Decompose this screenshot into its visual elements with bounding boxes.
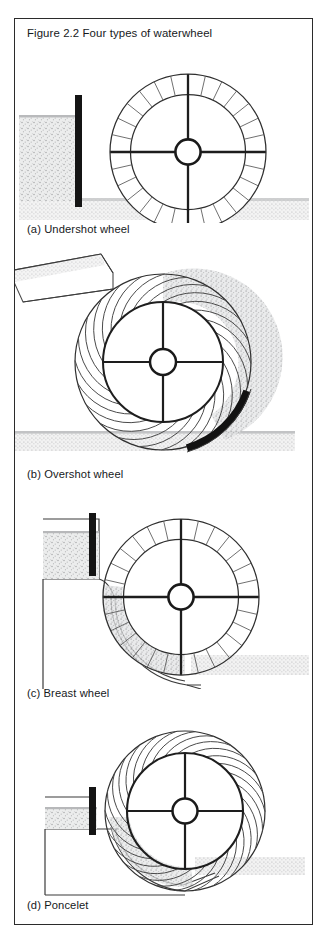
waterwheel-c (102, 519, 259, 675)
tailrace-water-d (195, 857, 305, 875)
caption-breast: (c) Breast wheel (27, 687, 109, 699)
figure-frame: Figure 2.2 Four types of waterwheel (14, 18, 313, 925)
panel-overshot-wheel (15, 245, 312, 467)
figure-page: Figure 2.2 Four types of waterwheel (0, 0, 329, 939)
caption-overshot: (b) Overshot wheel (27, 468, 123, 480)
sluice-gate-a (75, 95, 82, 207)
panel-poncelet-wheel (15, 709, 312, 899)
waterwheel-b (75, 268, 283, 452)
waterwheel-a (110, 74, 266, 223)
figure-title: Figure 2.2 Four types of waterwheel (27, 27, 212, 39)
panel-breast-wheel (15, 493, 312, 689)
tailrace-water-b (15, 431, 295, 451)
sluice-gate-d (89, 787, 96, 835)
caption-undershot: (a) Undershot wheel (27, 223, 130, 235)
headrace-water-a (19, 115, 75, 201)
caption-poncelet: (d) Poncelet (27, 899, 89, 911)
vane-water-shading-d (109, 817, 193, 887)
flume-chute-b (15, 254, 113, 302)
sluice-gate-c (89, 513, 96, 576)
tailrace-water-c (191, 655, 309, 675)
panel-undershot-wheel (15, 43, 312, 223)
